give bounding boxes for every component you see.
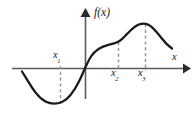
- y-axis-label-text: f(x): [94, 6, 110, 18]
- y-axis-arrowhead: [81, 8, 91, 17]
- x-axis-label-text: x: [172, 51, 177, 62]
- figure-container: f(x) x x1 x2 x3: [0, 0, 192, 116]
- x-axis: [12, 64, 191, 74]
- function-curve: [22, 24, 172, 104]
- label-x1: x1: [53, 50, 61, 63]
- label-x3: x3: [138, 68, 146, 81]
- y-axis-label: f(x): [94, 7, 110, 19]
- label-x2: x2: [111, 68, 119, 81]
- label-x1-subscript: 1: [57, 57, 60, 64]
- x-axis-label: x: [172, 52, 177, 63]
- x-axis-arrowhead: [183, 64, 191, 74]
- label-x3-subscript: 3: [142, 75, 145, 82]
- y-axis: [81, 8, 91, 99]
- label-x2-subscript: 2: [115, 75, 118, 82]
